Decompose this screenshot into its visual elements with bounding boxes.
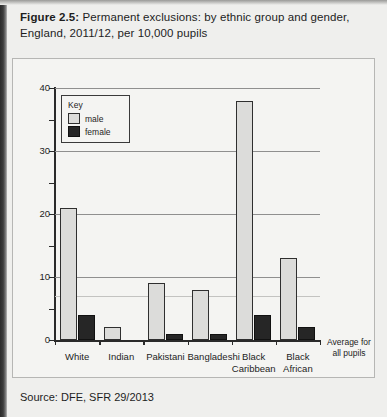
figure-title: Figure 2.5: Permanent exclusions: by eth… (20, 10, 370, 41)
x-tick-mark (188, 340, 189, 345)
bar-female (78, 315, 95, 340)
legend-item-male: male (68, 113, 124, 124)
x-tick-label-line: White (55, 351, 99, 363)
x-tick-label: Bangladeshi (188, 351, 232, 363)
y-tick-label: 10 (28, 271, 50, 282)
scanned-page: Figure 2.5: Permanent exclusions: by eth… (0, 0, 387, 417)
x-tick-label: BlackAfrican (276, 351, 320, 374)
bar-male (280, 258, 297, 340)
x-tick-label-line: Caribbean (232, 363, 276, 375)
bar-group (236, 88, 271, 340)
page-top-shadow (0, 0, 387, 5)
x-tick-mark (232, 340, 233, 345)
legend-title: Key (68, 100, 124, 110)
bar-male (60, 208, 77, 340)
figure-number: Figure 2.5: (20, 11, 79, 23)
bar-male (148, 283, 165, 340)
bar-group (148, 88, 183, 340)
x-tick-mark (99, 340, 100, 345)
chart-legend: Key male female (61, 95, 130, 143)
x-tick-label: BlackCaribbean (232, 351, 276, 374)
x-tick-label-line: Black (232, 351, 276, 363)
figure-source: Source: DFE, SFR 29/2013 (20, 391, 154, 403)
y-axis-labels: 010203040 (23, 88, 50, 340)
x-tick-label: White (55, 351, 99, 363)
bar-group (192, 88, 227, 340)
bar-male (192, 290, 209, 340)
x-axis-labels: WhiteIndianPakistaniBangladeshiBlackCari… (55, 345, 320, 379)
chart-container: 010203040 WhiteIndianPakistaniBangladesh… (12, 58, 375, 378)
bar-group (280, 88, 315, 340)
x-tick-label: Pakistani (143, 351, 187, 363)
x-tick-label-line: Indian (99, 351, 143, 363)
bar-male (104, 327, 121, 340)
page-spine (0, 0, 7, 417)
y-tick-label: 0 (28, 334, 50, 345)
bar-female (166, 334, 183, 340)
x-tick-mark (276, 340, 277, 345)
average-annotation-line2: all pupils (323, 348, 375, 359)
x-tick-mark (320, 340, 321, 345)
average-annotation: Average for all pupils (323, 337, 375, 358)
y-tick-label: 40 (28, 82, 50, 93)
legend-item-female: female (68, 126, 124, 137)
legend-swatch-female (68, 126, 80, 137)
bar-female (210, 334, 227, 340)
bar-female (298, 327, 315, 340)
bar-male (236, 101, 253, 340)
legend-label-female: female (85, 127, 111, 137)
x-tick-label-line: Pakistani (143, 351, 187, 363)
x-tick-label-line: Bangladeshi (188, 351, 232, 363)
y-tick-label: 30 (28, 145, 50, 156)
legend-swatch-male (68, 113, 80, 124)
x-tick-mark (143, 340, 144, 345)
x-tick-label-line: African (276, 363, 320, 375)
bar-female (254, 315, 271, 340)
y-tick-label: 20 (28, 208, 50, 219)
average-annotation-line1: Average for (323, 337, 375, 348)
x-tick-mark (55, 340, 56, 345)
x-tick-label-line: Black (276, 351, 320, 363)
x-tick-label: Indian (99, 351, 143, 363)
legend-label-male: male (85, 114, 103, 124)
